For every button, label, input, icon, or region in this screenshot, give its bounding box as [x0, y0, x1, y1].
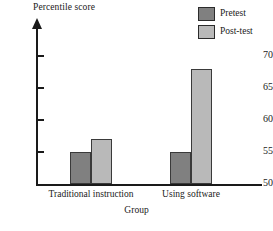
y-tick-65 [37, 87, 44, 89]
bar-post-test-group-1 [91, 139, 112, 184]
bar-pretest-group-2 [170, 152, 191, 184]
chart-legend: Pretest Post-test [198, 7, 253, 39]
x-axis-line [36, 184, 262, 186]
legend-label-post-test: Post-test [220, 27, 253, 37]
y-tick-label-60: 60 [247, 114, 273, 124]
y-tick-label-50: 50 [247, 178, 273, 188]
y-axis-title: Percentile score [33, 2, 95, 12]
legend-label-pretest: Pretest [220, 9, 246, 19]
bar-chart: Percentile score Pretest Post-test 50556… [0, 0, 273, 231]
legend-item-post-test: Post-test [198, 25, 253, 39]
y-tick-60 [37, 119, 44, 121]
y-tick-label-55: 55 [247, 146, 273, 156]
legend-swatch-pretest [198, 7, 215, 21]
y-tick-label-65: 65 [247, 82, 273, 92]
y-tick-55 [37, 151, 44, 153]
y-tick-label-70: 70 [247, 50, 273, 60]
y-tick-70 [37, 55, 44, 57]
bar-post-test-group-2 [191, 69, 212, 184]
bar-pretest-group-1 [70, 152, 91, 184]
y-axis-line [36, 27, 38, 185]
legend-swatch-post-test [198, 25, 215, 39]
legend-item-pretest: Pretest [198, 7, 253, 21]
x-category-label-2: Using software [131, 189, 251, 199]
x-axis-title: Group [0, 205, 273, 215]
